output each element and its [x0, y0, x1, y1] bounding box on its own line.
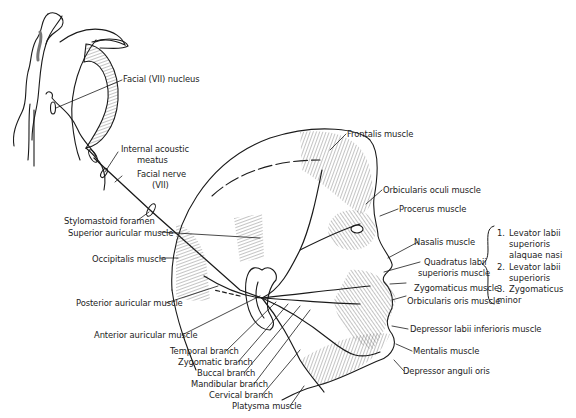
label-facial-nerve: Facial nerve: [137, 169, 186, 179]
part-line: alaquae nasi: [497, 250, 576, 261]
part-line: Levator labii: [509, 228, 561, 238]
label-zygomaticus-muscle: Zygomaticus muscle: [414, 283, 499, 293]
quadratus-parts-list: 1.Levator labii superioris alaquae nasi …: [497, 228, 576, 306]
label-temporal-branch: Temporal branch: [170, 346, 239, 356]
label-cervical-branch: Cervical branch: [209, 390, 273, 400]
label-frontalis-muscle: Frontalis muscle: [347, 129, 413, 139]
label-mentalis-muscle: Mentalis muscle: [413, 346, 479, 356]
label-platysma-muscle: Platysma muscle: [232, 401, 301, 411]
part-line: Levator labii: [509, 262, 561, 272]
brainstem-inset: [13, 13, 157, 218]
part-line: superioris: [497, 273, 576, 284]
part-number: 2.: [497, 262, 509, 273]
label-orbicularis-oculi-muscle: Orbicularis oculi muscle: [383, 185, 481, 195]
label-stylomastoid-foramen: Stylomastoid foramen: [64, 216, 155, 226]
label-depressor-anguli-oris: Depressor anguli oris: [403, 366, 490, 376]
label-facial-nucleus: Facial (VII) nucleus: [123, 74, 199, 84]
label-quadratus-labii-2: superioris muscle: [418, 268, 490, 278]
label-buccal-branch: Buccal branch: [197, 368, 255, 378]
facial-nerve-illustration: [0, 0, 576, 418]
label-quadratus-labii: Quadratus labii: [424, 257, 486, 267]
label-depressor-labii-inferioris: Depressor labii inferioris muscle: [410, 324, 541, 334]
label-superior-auricular-muscle: Superior auricular muscle: [68, 228, 173, 238]
label-procerus-muscle: Procerus muscle: [399, 204, 466, 214]
label-posterior-auricular-muscle: Posterior auricular muscle: [76, 298, 183, 308]
label-facial-nerve-2: (VII): [152, 180, 169, 190]
label-anterior-auricular-muscle: Anterior auricular muscle: [94, 330, 198, 340]
label-nasalis-muscle: Nasalis muscle: [414, 237, 475, 247]
label-mandibular-branch: Mandibular branch: [191, 379, 268, 389]
occipitalis-region: [176, 224, 210, 301]
label-internal-acoustic-meatus: Internal acoustic: [121, 144, 189, 154]
part-number: 3.: [497, 284, 509, 295]
label-internal-acoustic-meatus-2: meatus: [137, 155, 168, 165]
label-orbicularis-oris-muscle: Orbicularis oris muscle: [407, 296, 500, 306]
label-zygomatic-branch: Zygomatic branch: [178, 357, 253, 367]
label-occipitalis-muscle: Occipitalis muscle: [92, 254, 166, 264]
part-number: 1.: [497, 228, 509, 239]
part-line: superioris: [497, 239, 576, 250]
